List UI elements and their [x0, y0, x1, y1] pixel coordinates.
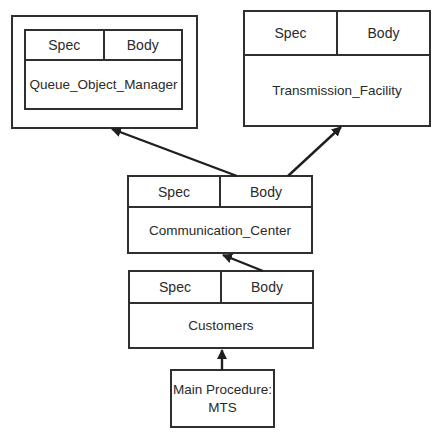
package-header: Spec Body [26, 31, 181, 61]
body-cell[interactable]: Body [222, 272, 312, 302]
main-procedure-name: MTS [208, 399, 237, 417]
package-transmission-facility[interactable]: Spec Body Transmission_Facility [243, 10, 431, 127]
arrow-comm-to-queue [112, 129, 237, 176]
spec-cell[interactable]: Spec [245, 12, 338, 54]
spec-cell[interactable]: Spec [130, 272, 222, 302]
arrow-customers-to-comm [223, 255, 263, 271]
package-header: Spec Body [245, 12, 429, 56]
package-name: Queue_Object_Manager [26, 61, 181, 108]
package-name: Customers [130, 304, 312, 347]
package-customers[interactable]: Spec Body Customers [128, 270, 314, 349]
body-cell[interactable]: Body [221, 177, 311, 206]
package-communication-center[interactable]: Spec Body Communication_Center [127, 175, 313, 254]
main-procedure-mts[interactable]: Main Procedure: MTS [170, 369, 275, 428]
spec-cell[interactable]: Spec [129, 177, 221, 206]
package-header: Spec Body [129, 177, 311, 208]
package-header: Spec Body [130, 272, 312, 304]
spec-cell[interactable]: Spec [26, 31, 105, 59]
package-name: Transmission_Facility [245, 56, 429, 125]
main-procedure-label: Main Procedure: [173, 381, 272, 399]
package-queue-object-manager[interactable]: Spec Body Queue_Object_Manager [24, 29, 183, 110]
arrow-comm-to-transmission [288, 127, 341, 176]
body-cell[interactable]: Body [338, 12, 429, 54]
body-cell[interactable]: Body [105, 31, 182, 59]
package-name: Communication_Center [129, 208, 311, 252]
